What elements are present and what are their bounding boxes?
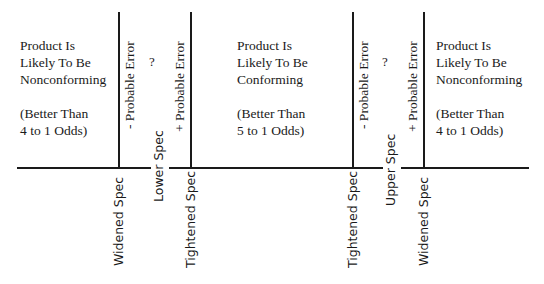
region-text-line: Likely To Be bbox=[20, 54, 106, 71]
region-odds-line: (Better Than bbox=[237, 105, 308, 122]
region-text-line: Product Is bbox=[20, 37, 106, 54]
upper-widened-spec-line bbox=[423, 12, 425, 169]
lower-minus-probable-error-label: - Probable Error bbox=[123, 41, 137, 129]
upper-uncertain-mark: ? bbox=[382, 55, 388, 69]
upper-plus-probable-error-label: + Probable Error bbox=[406, 41, 420, 132]
lower-spec-label: Lower Spec bbox=[152, 130, 166, 202]
axis-line-right-segment bbox=[401, 167, 529, 169]
upper-widened-spec-label: Widened Spec bbox=[417, 177, 431, 266]
axis-line-middle-segment bbox=[169, 167, 383, 169]
lower-uncertain-mark: ? bbox=[149, 55, 155, 69]
left-nonconforming-region: Product Is Likely To Be Nonconforming (B… bbox=[20, 37, 106, 139]
region-odds-line: (Better Than bbox=[436, 105, 522, 122]
lower-widened-spec-label: Widened Spec bbox=[112, 177, 126, 266]
lower-tightened-spec-line bbox=[190, 12, 192, 169]
middle-conforming-region: Product Is Likely To Be Conforming (Bett… bbox=[237, 37, 308, 139]
region-text-line: Conforming bbox=[237, 71, 308, 88]
lower-plus-probable-error-label: + Probable Error bbox=[173, 41, 187, 132]
region-text-line: Nonconforming bbox=[20, 71, 106, 88]
region-odds-line: 5 to 1 Odds) bbox=[237, 122, 308, 139]
upper-tightened-spec-line bbox=[352, 12, 354, 169]
upper-minus-probable-error-label: - Probable Error bbox=[357, 41, 371, 129]
right-nonconforming-region: Product Is Likely To Be Nonconforming (B… bbox=[436, 37, 522, 139]
lower-tightened-spec-label: Tightened Spec bbox=[184, 171, 198, 268]
axis-line-left-segment bbox=[17, 167, 151, 169]
region-text-line: Likely To Be bbox=[237, 54, 308, 71]
region-odds-line: 4 to 1 Odds) bbox=[436, 122, 522, 139]
region-text-line: Product Is bbox=[436, 37, 522, 54]
region-text-line: Nonconforming bbox=[436, 71, 522, 88]
guard-band-diagram: Product Is Likely To Be Nonconforming (B… bbox=[0, 0, 544, 284]
lower-widened-spec-line bbox=[118, 12, 120, 169]
region-odds-line: (Better Than bbox=[20, 105, 106, 122]
region-odds-line: 4 to 1 Odds) bbox=[20, 122, 106, 139]
upper-spec-label: Upper Spec bbox=[384, 134, 398, 206]
upper-tightened-spec-label: Tightened Spec bbox=[346, 171, 360, 268]
region-text-line: Product Is bbox=[237, 37, 308, 54]
region-text-line: Likely To Be bbox=[436, 54, 522, 71]
